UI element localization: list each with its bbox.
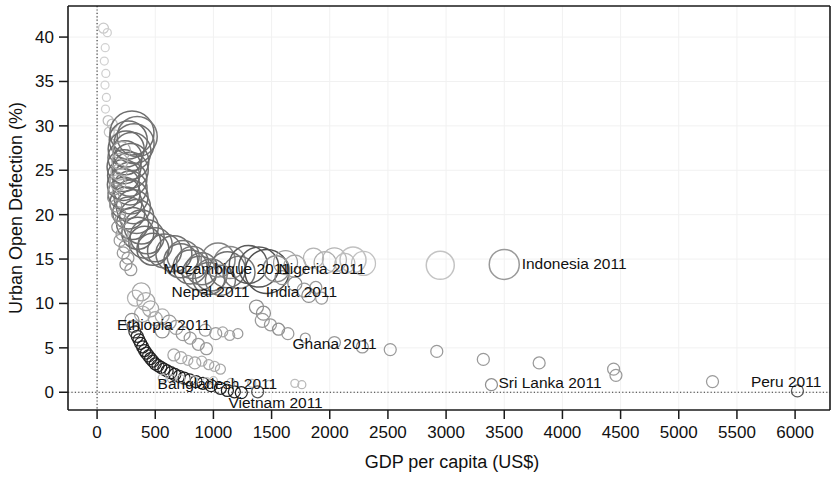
scatter-plot: 0500100015002000250030003500400045005000… (0, 0, 837, 479)
data-point (175, 352, 187, 364)
y-tick-label: 35 (35, 72, 54, 91)
x-axis-ticks: 0500100015002000250030003500400045005000… (92, 410, 814, 442)
point-label: Mozambique 2011 (163, 260, 289, 277)
plot-frame (68, 6, 830, 410)
data-point (101, 105, 109, 113)
data-point (100, 57, 108, 65)
data-point (210, 361, 220, 371)
data-point (215, 364, 225, 374)
point-label: Ethiopia 2011 (117, 316, 211, 333)
x-tick-label: 3000 (427, 423, 465, 442)
point-label: Vietnam 2011 (229, 394, 323, 411)
data-point (431, 345, 443, 357)
y-tick-label: 0 (45, 383, 54, 402)
point-label: India 2011 (266, 283, 337, 300)
data-point (101, 44, 109, 52)
x-tick-label: 1500 (253, 423, 291, 442)
x-tick-label: 5000 (660, 423, 698, 442)
y-tick-label: 15 (35, 250, 54, 269)
x-axis-title: GDP per capita (US$) (365, 452, 540, 472)
data-point (189, 357, 201, 369)
y-axis-ticks: 0510152025303540 (35, 28, 68, 402)
chart-container: 0500100015002000250030003500400045005000… (0, 0, 837, 479)
x-tick-label: 4000 (544, 423, 582, 442)
y-tick-label: 10 (35, 294, 54, 313)
point-label: Ghana 2011 (293, 335, 377, 352)
point-label: Bangladesh 2011 (158, 375, 278, 392)
point-label: Nigeria 2011 (279, 260, 366, 277)
x-tick-label: 5500 (718, 423, 756, 442)
gridlines (68, 6, 830, 410)
data-point (183, 355, 193, 365)
x-tick-label: 3500 (485, 423, 523, 442)
data-points-group (98, 23, 803, 398)
y-tick-label: 25 (35, 161, 54, 180)
point-label: Indonesia 2011 (522, 255, 627, 272)
x-tick-label: 500 (141, 423, 169, 442)
data-point (210, 328, 222, 340)
data-point (102, 69, 110, 77)
x-tick-label: 2500 (369, 423, 407, 442)
data-point (101, 81, 109, 89)
point-labels-group: Mozambique 2011Nepal 2011Ethiopia 2011Ba… (117, 255, 821, 411)
data-point (102, 93, 110, 101)
x-tick-label: 2000 (311, 423, 349, 442)
y-tick-label: 40 (35, 28, 54, 47)
data-point (384, 344, 396, 356)
data-point (477, 353, 489, 365)
y-tick-label: 5 (45, 339, 54, 358)
data-point (125, 264, 137, 276)
x-tick-label: 0 (92, 423, 101, 442)
x-tick-label: 6000 (776, 423, 814, 442)
reference-lines (68, 6, 830, 410)
y-tick-label: 20 (35, 206, 54, 225)
data-point (533, 357, 545, 369)
data-point (147, 355, 159, 367)
point-label: Sri Lanka 2011 (498, 374, 601, 391)
y-axis-title: Urban Open Defection (%) (6, 102, 26, 314)
data-point (485, 379, 497, 391)
point-label: Nepal 2011 (172, 283, 250, 300)
point-label: Peru 2011 (751, 373, 821, 390)
data-point (426, 251, 454, 279)
x-tick-label: 4500 (602, 423, 640, 442)
data-point (168, 349, 180, 361)
y-tick-label: 30 (35, 117, 54, 136)
data-point (707, 376, 719, 388)
x-tick-label: 1000 (195, 423, 233, 442)
